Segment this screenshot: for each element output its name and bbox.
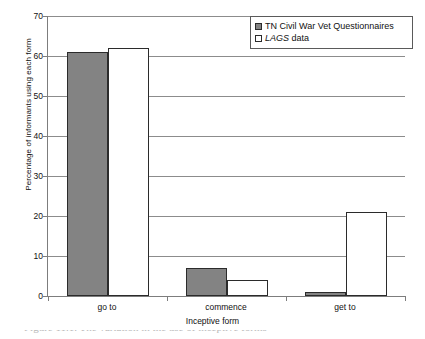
- x-tick-label-commence: commence: [205, 302, 247, 312]
- x-axis-line: [47, 296, 406, 297]
- y-tick-label: 20: [3, 212, 43, 221]
- x-axis-title: Inceptive form: [0, 316, 425, 326]
- bar-group-go-to: [48, 16, 167, 296]
- figure-container: Percentage of informants using each form…: [0, 0, 425, 339]
- x-tick-mark: [405, 296, 406, 301]
- x-tick-mark: [167, 296, 168, 301]
- x-tick-label-go-to: go to: [98, 302, 117, 312]
- bar-commence-series1[interactable]: [186, 268, 227, 296]
- y-tick-label: 40: [3, 132, 43, 141]
- legend-swatch-gray-icon: [255, 23, 262, 30]
- bar-go-to-series1[interactable]: [67, 52, 108, 296]
- bar-get-to-series1[interactable]: [305, 292, 346, 296]
- legend-item-lags-data[interactable]: LAGS data: [255, 32, 408, 44]
- x-tick-mark: [48, 296, 49, 301]
- legend-label-series2-italic: LAGS: [265, 33, 289, 43]
- y-tick-label: 60: [3, 52, 43, 61]
- legend-item-tn-questionnaires[interactable]: TN Civil War Vet Questionnaires: [255, 20, 408, 32]
- legend-label-series2-rest: data: [289, 33, 309, 43]
- y-tick-label: 30: [3, 172, 43, 181]
- bar-get-to-series2[interactable]: [346, 212, 387, 296]
- y-tick-label: 70: [3, 12, 43, 21]
- y-tick-label: 10: [3, 252, 43, 261]
- y-axis-ticks: 70 60 50 40 30 20 10 0: [0, 16, 43, 297]
- legend-swatch-white-icon: [255, 35, 262, 42]
- legend-label-series1: TN Civil War Vet Questionnaires: [265, 22, 394, 31]
- plot-area: [48, 16, 405, 296]
- figure-caption: Figure 11.1. The variation in the use of…: [24, 330, 267, 333]
- caption-strip: Figure 11.1. The variation in the use of…: [0, 330, 425, 339]
- bar-series-container: [48, 16, 405, 296]
- y-tick-label: 50: [3, 92, 43, 101]
- bar-go-to-series2[interactable]: [108, 48, 149, 296]
- x-tick-label-get-to: get to: [334, 302, 355, 312]
- legend-label-series2: LAGS data: [265, 34, 309, 43]
- legend: TN Civil War Vet Questionnaires LAGS dat…: [250, 16, 413, 49]
- y-tick-label: 0: [3, 292, 43, 301]
- x-tick-mark: [286, 296, 287, 301]
- bar-group-get-to: [286, 16, 405, 296]
- bar-group-commence: [167, 16, 286, 296]
- bar-commence-series2[interactable]: [227, 280, 268, 296]
